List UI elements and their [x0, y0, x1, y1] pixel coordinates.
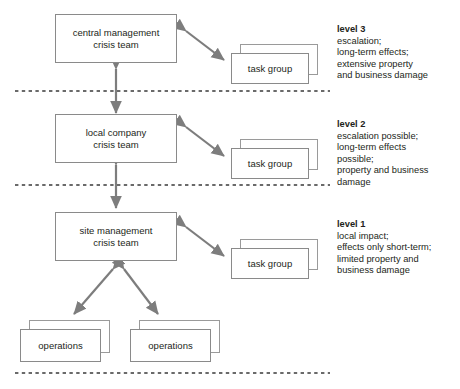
level-2-line-2: long-term effects: [337, 142, 459, 153]
node-task-group-level2[interactable]: task group: [231, 139, 318, 179]
arrow-site-operations-right: [124, 269, 158, 314]
level-2-description: level 2 escalation possible; long-term e…: [337, 119, 459, 188]
arrow-local-taskgroup: [186, 127, 224, 156]
operations-card-front[interactable]: operations: [130, 329, 211, 362]
level-2-title: level 2: [337, 119, 459, 130]
arrow-central-taskgroup: [186, 31, 224, 60]
arrow-site-operations-left: [74, 269, 113, 314]
level-1-line-3: limited property and: [337, 254, 459, 265]
level-2-line-5: damage: [337, 177, 459, 188]
node-task-group-level3[interactable]: task group: [231, 44, 318, 84]
level-2-line-4: property and business: [337, 165, 459, 176]
task-group-label: task group: [248, 258, 292, 269]
task-group-card-front[interactable]: task group: [231, 248, 309, 279]
node-local-line2: crisis team: [86, 139, 147, 151]
level-1-line-1: local impact;: [337, 231, 459, 242]
node-site-management-crisis-team[interactable]: site management crisis team: [55, 212, 177, 261]
node-local-line1: local company: [86, 127, 147, 139]
task-group-card-front[interactable]: task group: [231, 53, 309, 84]
level-2-line-3: possible;: [337, 154, 459, 165]
level-3-line-4: and business damage: [337, 70, 459, 81]
level-3-description: level 3 escalation; long-term effects; e…: [337, 24, 459, 82]
operations-card-front[interactable]: operations: [20, 329, 101, 362]
operations-label: operations: [148, 340, 192, 351]
node-operations-right[interactable]: operations: [130, 320, 220, 362]
node-task-group-level1[interactable]: task group: [231, 239, 318, 279]
level-1-description: level 1 local impact; effects only short…: [337, 219, 459, 277]
arrow-site-taskgroup: [186, 227, 224, 256]
node-operations-left[interactable]: operations: [20, 320, 110, 362]
node-central-line2: crisis team: [73, 39, 160, 51]
operations-label: operations: [38, 340, 82, 351]
node-site-line1: site management: [80, 225, 153, 237]
node-central-management-crisis-team[interactable]: central management crisis team: [55, 14, 177, 63]
node-local-company-crisis-team[interactable]: local company crisis team: [55, 114, 177, 163]
node-central-line1: central management: [73, 27, 160, 39]
node-site-line2: crisis team: [80, 237, 153, 249]
level-1-line-2: effects only short-term;: [337, 242, 459, 253]
level-1-line-4: business damage: [337, 265, 459, 276]
task-group-label: task group: [248, 63, 292, 74]
task-group-label: task group: [248, 158, 292, 169]
level-3-line-1: escalation;: [337, 36, 459, 47]
task-group-card-front[interactable]: task group: [231, 148, 309, 179]
level-3-line-2: long-term effects;: [337, 47, 459, 58]
diagram-canvas: central management crisis team local com…: [0, 0, 460, 389]
level-1-title: level 1: [337, 219, 459, 230]
level-3-title: level 3: [337, 24, 459, 35]
level-3-line-3: extensive property: [337, 59, 459, 70]
level-2-line-1: escalation possible;: [337, 131, 459, 142]
